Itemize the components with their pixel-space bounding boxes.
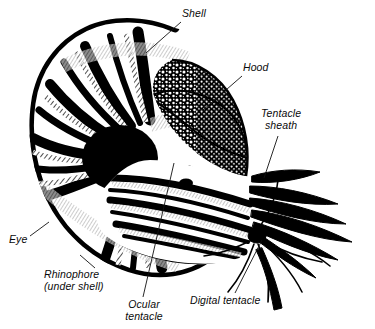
label-tentacle-sheath-line-2: sheath bbox=[261, 120, 301, 132]
eye-spot bbox=[179, 179, 193, 188]
leader-eye bbox=[30, 222, 49, 236]
label-ocular-tentacle-line-1: Ocular bbox=[118, 299, 170, 311]
nautilus-anatomy-figure: Shell Hood Tentacle sheath Eye Rhinophor… bbox=[0, 0, 375, 329]
label-shell-line-1: Shell bbox=[182, 8, 206, 20]
label-tentacle-sheath: Tentacle sheath bbox=[261, 108, 301, 131]
label-shell: Shell bbox=[182, 8, 206, 20]
label-rhinophore-line-2: (under shell) bbox=[44, 281, 104, 293]
label-rhinophore-line-1: Rhinophore bbox=[44, 269, 104, 281]
label-hood-line-1: Hood bbox=[243, 62, 269, 74]
label-ocular-tentacle-line-2: tentacle bbox=[118, 311, 170, 323]
label-digital-tentacle-line-1: Digital tentacle bbox=[190, 295, 260, 307]
label-eye-line-1: Eye bbox=[9, 234, 27, 246]
label-rhinophore: Rhinophore (under shell) bbox=[44, 269, 104, 292]
label-tentacle-sheath-line-1: Tentacle bbox=[261, 108, 301, 120]
leader-rhinophore bbox=[80, 255, 95, 268]
label-eye: Eye bbox=[9, 234, 27, 246]
label-hood: Hood bbox=[243, 62, 269, 74]
label-digital-tentacle: Digital tentacle bbox=[190, 295, 260, 307]
label-ocular-tentacle: Ocular tentacle bbox=[118, 299, 170, 322]
digital-tentacle-base bbox=[248, 229, 266, 243]
